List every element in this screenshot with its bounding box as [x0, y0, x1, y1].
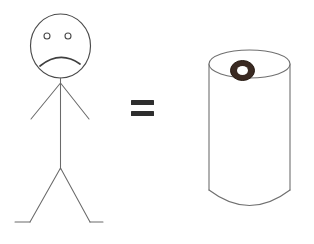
coffee-cup-cylinder — [209, 50, 290, 206]
equals-sign — [131, 100, 154, 116]
coffee-ring-hole — [237, 66, 248, 75]
sketch-illustration — [0, 0, 314, 244]
right-leg-line — [61, 168, 91, 222]
cup-bottom-arc — [209, 190, 290, 206]
left-leg-line — [30, 168, 61, 222]
equals-bar-top — [131, 100, 154, 105]
stick-figure-person — [15, 14, 103, 222]
head-outline — [31, 14, 91, 78]
right-eye-icon — [65, 33, 71, 39]
equals-bar-bottom — [131, 111, 154, 116]
left-arm-line — [31, 83, 61, 119]
left-eye-icon — [44, 33, 50, 39]
right-arm-line — [61, 83, 90, 119]
drawing-canvas: Stick figure equals coffee cup — [0, 0, 314, 244]
